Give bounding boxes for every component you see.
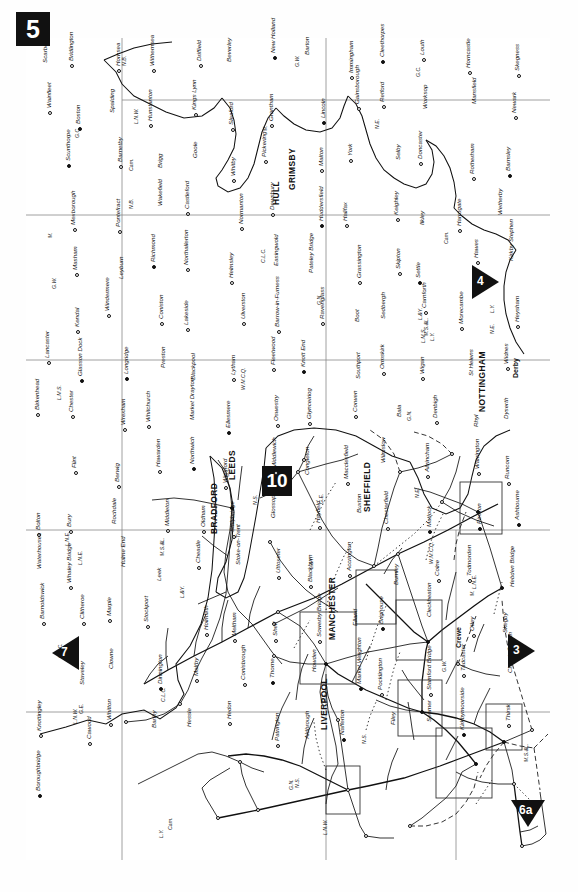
place-label: Cheadle: [195, 540, 201, 563]
place-label: Skegby: [502, 612, 508, 633]
station-dot: [146, 625, 150, 629]
station-dot: [186, 328, 190, 332]
place-label: Clitheroe: [79, 594, 85, 619]
place-label: Birkenhead: [34, 378, 40, 409]
station-dot: [512, 782, 516, 786]
place-label: Chester: [68, 390, 74, 412]
place-label: Altrincham: [424, 443, 430, 472]
place-label: Barrow-in-Furness: [274, 276, 280, 327]
place-label: Keighley: [393, 191, 399, 215]
railway-company-label: N.S.: [253, 494, 258, 504]
place-label: Burnley: [393, 564, 399, 585]
place-label: Denbigh: [432, 395, 438, 418]
railway-company-label: L.N.W.: [323, 819, 328, 835]
place-label: Hessle: [186, 708, 192, 727]
station-dot: [296, 470, 300, 474]
place-label: Louth: [419, 39, 425, 54]
place-label: Newark: [511, 92, 517, 113]
place-label: Kirkby Stephen: [508, 219, 514, 261]
railway-company-label: G.W.: [295, 55, 300, 67]
place-label: Ilkley: [419, 211, 425, 225]
place-label: Oswestry: [273, 395, 279, 421]
railway-company-label: L.N.E.: [65, 531, 70, 545]
station-dot: [386, 527, 390, 531]
station-dot: [36, 413, 40, 417]
atlas-page: .ln {stroke:#111;fill:none;stroke-width:…: [0, 0, 578, 892]
place-label: Wrexham: [120, 399, 126, 425]
place-label: Whitby: [230, 157, 236, 176]
place-label: Grassington: [356, 245, 362, 278]
railway-company-label: L.M.S.: [57, 385, 62, 400]
station-dot: [514, 116, 518, 120]
place-label: Pateley Bridge: [308, 233, 314, 273]
place-label: Tadcaster: [460, 644, 466, 671]
place-label: Heysham: [514, 296, 520, 322]
place-label: Hawes: [473, 239, 479, 258]
place-label: Glasson Dock: [77, 337, 83, 376]
place-label: Lytham: [230, 355, 236, 375]
place-label: Whitton: [106, 699, 112, 720]
station-dot: [318, 526, 322, 530]
railway-company-label: M.: [470, 590, 475, 596]
place-label: Patrington: [274, 713, 280, 741]
place-label: Wakefield: [157, 179, 163, 206]
place-label: Mexborough: [70, 190, 76, 224]
railway-company-label: M.: [263, 126, 268, 132]
place-label: Rochdale: [111, 497, 117, 523]
place-label: Market Weighton: [356, 637, 362, 684]
place-label: Corwen: [352, 391, 358, 412]
place-label: Middlewich: [271, 437, 277, 468]
railway-company-label: L.Y.: [490, 304, 495, 313]
place-label: Matlock: [426, 506, 432, 527]
place-label: Settle: [415, 262, 421, 278]
station-dot: [268, 540, 272, 544]
place-label: Brigg: [157, 154, 163, 168]
place-label: Ashbourne: [514, 490, 520, 520]
place-label: Goole: [192, 141, 198, 158]
place-label: Thirsk: [505, 704, 511, 721]
station-dot: [178, 702, 182, 706]
place-label: Retford: [379, 82, 385, 102]
page-link-4[interactable]: 4: [472, 265, 499, 299]
place-label: Barlby: [151, 710, 157, 728]
railway-company-label: Cam.: [129, 158, 134, 170]
station-dot: [474, 762, 478, 766]
place-label: Kings Lynn: [191, 79, 197, 110]
station-dot: [271, 213, 275, 217]
station-dot: [272, 368, 276, 372]
station-dot: [346, 788, 350, 792]
station-dot: [426, 640, 430, 644]
station-dot: [71, 415, 75, 419]
place-label: Pocklington: [377, 658, 383, 690]
place-label: Bury: [66, 514, 72, 527]
station-dot: [42, 622, 46, 626]
station-dot: [73, 228, 77, 232]
station-dot: [276, 610, 280, 614]
railway-company-label: L.Y.: [430, 332, 435, 341]
place-label: Seamer: [426, 700, 432, 722]
station-dot: [166, 529, 170, 533]
place-label: Mansfield: [471, 78, 477, 104]
page-link-6a[interactable]: 6a: [511, 800, 545, 827]
railway-company-label: N.B.: [129, 199, 134, 209]
station-dot: [277, 576, 281, 580]
place-label: Barnoldswick: [39, 583, 45, 619]
place-label: Warrington: [474, 439, 480, 469]
place-label: Filey: [390, 712, 396, 725]
station-dot: [152, 265, 156, 269]
station-dot: [420, 710, 424, 714]
station-dot: [107, 314, 111, 318]
place-label: Knott End: [300, 340, 306, 367]
city-label-liverpool: LIVERPOOL: [320, 678, 328, 730]
station-dot: [342, 738, 346, 742]
railway-company-label: G.C.: [416, 66, 421, 77]
place-label: Glossop: [270, 495, 276, 518]
station-dot: [359, 687, 363, 691]
railway-company-label: L.&Y.: [180, 586, 185, 598]
station-dot: [398, 470, 402, 474]
place-label: Todmorden: [466, 545, 472, 576]
railway-company-label: G.C.: [225, 467, 230, 478]
railway-company-label: N.E.: [375, 119, 380, 129]
place-label: Easingwold: [273, 234, 279, 266]
station-dot: [48, 111, 52, 115]
